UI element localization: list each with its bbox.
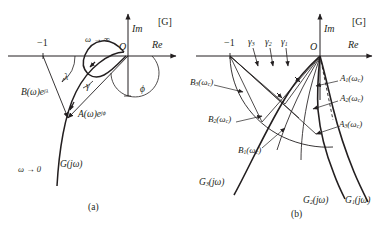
- panel-a-vector-a-label: A(ω)ejϕ: [78, 110, 106, 120]
- panel-b-a2-arg: (ω: [348, 93, 357, 103]
- panel-b-b1-close: ): [258, 145, 261, 155]
- panel-b-plane-tag: [G]: [352, 17, 366, 27]
- nyquist-figure: −1 Im Re O [G] ω → ∞ ω → 0 G(jω) B(ω)ejλ…: [0, 0, 386, 231]
- panel-b-b1-label: B1(ωc): [238, 146, 261, 156]
- panel-b-b3-close: ): [210, 77, 213, 87]
- panel-a-vector-b-exponent: jλ: [44, 88, 48, 94]
- panel-a-critical-point-label: −1: [37, 38, 48, 48]
- panel-a-vector-b-label: B(ω)ejλ: [21, 88, 48, 98]
- panel-b-a3-arg: (ω: [347, 119, 356, 129]
- panel-b-b1-leader: [262, 128, 285, 148]
- panel-b-b2-leader: [236, 116, 262, 122]
- panel-b-gamma1-label: γ1: [281, 38, 288, 48]
- panel-a-nyquist-curve-loop: [83, 41, 124, 74]
- panel-a-omega-zero-label: ω → 0: [18, 165, 41, 174]
- panel-b-g2-label: G2(jω): [303, 196, 329, 206]
- panel-b-g3-base: G: [199, 177, 206, 187]
- panel-b-g3-label: G3(jω): [199, 178, 225, 188]
- panel-b-vector-a2: [285, 56, 320, 104]
- panel-b-vector-b1: [230, 56, 316, 134]
- panel-b-b1-arg: (ω: [246, 145, 255, 155]
- panel-b-a2-close: ): [360, 93, 363, 103]
- panel-b-gamma1-sub: 1: [285, 41, 288, 47]
- panel-b-a3-close: ): [359, 119, 362, 129]
- panel-b-origin-label: O: [310, 42, 317, 52]
- panel-a-plane-tag: [G]: [158, 17, 172, 27]
- panel-a-angle-phi-label: ϕ: [140, 85, 145, 95]
- panel-b-g2-arg: (jω): [313, 195, 329, 205]
- panel-a-vector-a-exponent: jϕ: [101, 110, 106, 116]
- panel-a-real-axis-label: Re: [152, 40, 163, 50]
- panel-a-angle-lambda-label: λ: [64, 73, 68, 83]
- panel-b-a1-label: A1(ωc): [340, 74, 363, 84]
- panel-b-gamma3-sub: 3: [252, 41, 255, 47]
- panel-b-b3-label: B3(ωc): [190, 78, 213, 88]
- panel-a-imag-axis-label: Im: [132, 24, 143, 34]
- panel-a-angle-gamma-label: γ: [86, 82, 90, 92]
- panel-b-b2-arg: (ω: [216, 114, 225, 124]
- panel-b-gamma2-label: γ2: [265, 38, 272, 48]
- panel-b-a2-label: A2(ωc): [340, 94, 363, 104]
- panel-b-g1-arg: (jω): [355, 195, 371, 205]
- panel-b-gamma2-leader: [270, 48, 273, 66]
- panel-b-caption: (b): [291, 210, 302, 220]
- panel-a-caption: (a): [88, 203, 99, 213]
- panel-b-critical-point-label: −1: [224, 38, 235, 48]
- panel-b-vector-b-extra: [230, 56, 262, 122]
- panel-b-g3-arg: (jω): [209, 177, 225, 187]
- panel-b-gamma1-leader: [286, 48, 288, 66]
- panel-a-curve-label: G(jω): [60, 160, 83, 170]
- panel-a-omega-infinity-label: ω → ∞: [85, 35, 110, 44]
- panel-b-g2-base: G: [303, 195, 310, 205]
- panel-b-b3-arg: (ω: [198, 77, 207, 87]
- panel-b-b2-label: B2(ωc): [208, 115, 231, 125]
- panel-b-g1-base: G: [345, 195, 352, 205]
- panel-b-gamma3-leader: [253, 48, 258, 66]
- panel-a-origin-label: O: [119, 42, 126, 52]
- panel-a-vector-a-base: A(ω)e: [78, 109, 101, 119]
- panel-b-g1-label: G1(jω): [345, 196, 371, 206]
- panel-b-a2-leader: [313, 101, 338, 109]
- panel-b-imag-axis-label: Im: [324, 24, 335, 34]
- panel-a-vector-b-base: B(ω)e: [21, 87, 44, 97]
- panel-a-angle-phi-arc: [111, 56, 159, 97]
- panel-b-b2-close: ): [228, 114, 231, 124]
- panel-b-a1-close: ): [360, 73, 363, 83]
- panel-a-nyquist-curve-return: [88, 56, 126, 77]
- panel-b-real-axis-label: Re: [348, 40, 359, 50]
- panel-b-b3-leader: [214, 85, 243, 92]
- panel-b-gamma3-label: γ3: [248, 38, 255, 48]
- panel-b-a3-leader: [316, 127, 337, 134]
- panel-b-a1-arg: (ω: [348, 73, 357, 83]
- panel-b-a3-label: A3(ωc): [339, 120, 362, 130]
- panel-b-gamma2-sub: 2: [269, 41, 272, 47]
